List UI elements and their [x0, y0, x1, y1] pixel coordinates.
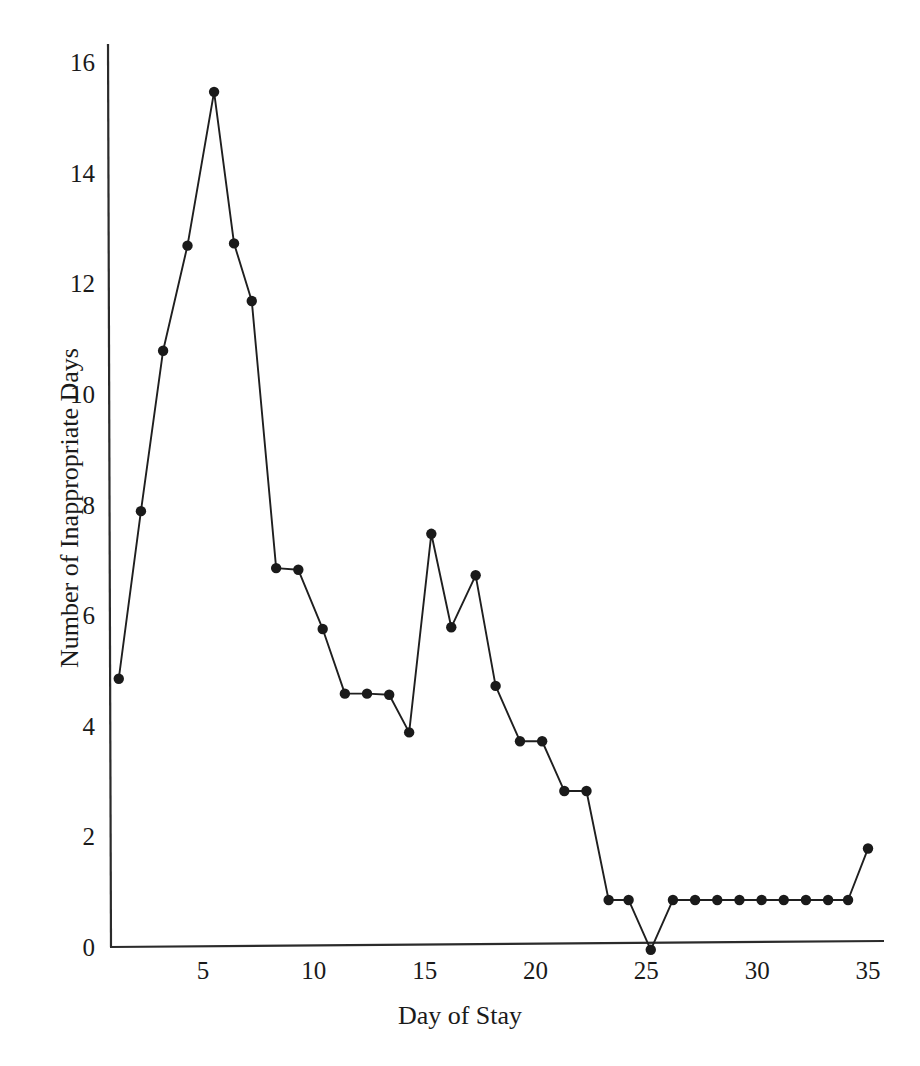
data-point [581, 786, 591, 796]
data-point [823, 895, 833, 905]
x-axis-title: Day of Stay [0, 1003, 920, 1029]
data-point [623, 895, 633, 905]
data-point [293, 565, 303, 575]
data-point [229, 238, 239, 248]
data-point [404, 727, 414, 737]
data-point [843, 895, 853, 905]
data-point [247, 296, 257, 306]
line-chart-canvas [0, 0, 920, 1066]
data-point [734, 895, 744, 905]
data-point-markers [114, 87, 874, 955]
x-axis-tick-label: 25 [634, 958, 659, 983]
data-point [340, 688, 350, 698]
y-axis-line [108, 44, 111, 947]
data-point [712, 895, 722, 905]
data-series-line [119, 92, 868, 950]
data-point [756, 895, 766, 905]
y-axis-tick-label: 4 [83, 713, 96, 738]
data-point [490, 681, 500, 691]
data-point [515, 736, 525, 746]
data-point [559, 786, 569, 796]
axis-lines [108, 44, 884, 947]
data-point [426, 529, 436, 539]
y-axis-tick-label: 0 [83, 935, 96, 960]
y-axis-tick-label: 2 [83, 824, 96, 849]
data-point [470, 570, 480, 580]
data-point [209, 87, 219, 97]
data-point [182, 240, 192, 250]
data-point [646, 945, 656, 955]
x-axis-tick-label: 30 [745, 958, 770, 983]
data-point [446, 622, 456, 632]
data-point [668, 895, 678, 905]
chart-figure: 0246810121416 5101520253035 Day of Stay … [0, 0, 920, 1066]
x-axis-tick-label: 35 [856, 958, 881, 983]
y-axis-tick-label: 6 [83, 603, 96, 628]
data-point [603, 895, 613, 905]
data-point [362, 688, 372, 698]
x-axis-tick-label: 20 [523, 958, 548, 983]
data-point [136, 506, 146, 516]
data-point [384, 690, 394, 700]
y-axis-title: Number of Inappropriate Days [57, 238, 83, 778]
y-axis-tick-label: 8 [83, 492, 96, 517]
data-point [863, 843, 873, 853]
data-point [779, 895, 789, 905]
data-point [271, 563, 281, 573]
x-axis-line [110, 941, 884, 947]
data-point [537, 736, 547, 746]
data-point [801, 895, 811, 905]
data-point [318, 624, 328, 634]
data-point [114, 674, 124, 684]
y-axis-tick-label: 14 [70, 160, 95, 185]
data-point [158, 346, 168, 356]
y-axis-tick-label: 16 [70, 50, 95, 75]
data-point [690, 895, 700, 905]
x-axis-tick-label: 10 [301, 958, 326, 983]
x-axis-tick-label: 15 [412, 958, 437, 983]
x-axis-tick-label: 5 [197, 958, 210, 983]
